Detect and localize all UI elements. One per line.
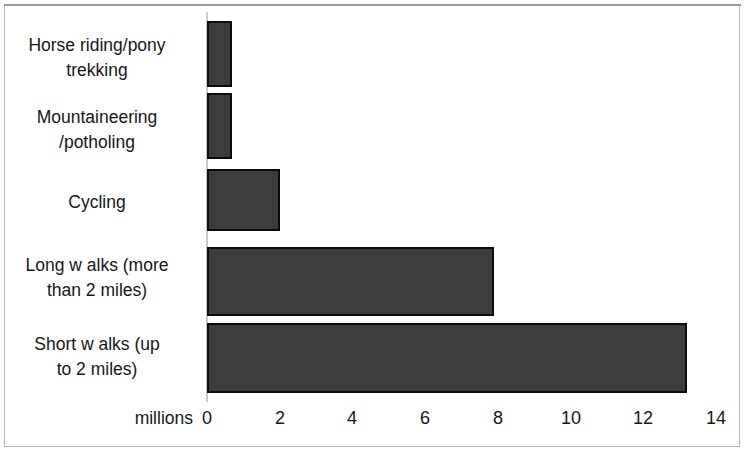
bar-fill-cycling xyxy=(207,169,280,231)
x-tick-label-2: 2 xyxy=(250,406,310,430)
bar-fill-horse-riding xyxy=(207,21,232,87)
bar-long-walks xyxy=(207,247,494,316)
bar-horse-riding xyxy=(207,21,232,87)
bar-fill-long-walks xyxy=(207,247,494,316)
bar-fill-short-walks xyxy=(207,323,687,393)
x-tick-label-4: 4 xyxy=(322,406,382,430)
category-label-mountaineering: Mountaineering /potholing xyxy=(4,105,190,155)
x-tick-label-0: 0 xyxy=(177,406,237,430)
category-label-cycling: Cycling xyxy=(4,190,190,215)
category-label-short-walks: Short w alks (up to 2 miles) xyxy=(4,332,190,382)
bar-fill-mountaineering xyxy=(207,93,232,159)
x-tick-label-6: 6 xyxy=(395,406,455,430)
category-label-long-walks: Long w alks (more than 2 miles) xyxy=(4,253,190,303)
bar-chart-plot-area: Horse riding/pony trekking Mountaineerin… xyxy=(0,0,746,453)
x-tick-label-12: 12 xyxy=(613,406,673,430)
x-tick-label-10: 10 xyxy=(541,406,601,430)
bar-mountaineering xyxy=(207,93,232,159)
x-tick-label-8: 8 xyxy=(468,406,528,430)
category-label-horse-riding: Horse riding/pony trekking xyxy=(4,33,190,83)
bar-cycling xyxy=(207,169,280,231)
x-tick-label-14: 14 xyxy=(686,406,746,430)
chart-page: Horse riding/pony trekking Mountaineerin… xyxy=(0,0,746,453)
bar-short-walks xyxy=(207,323,687,393)
